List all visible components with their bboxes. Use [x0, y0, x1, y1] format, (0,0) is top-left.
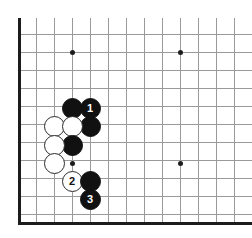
stone-black-b: [80, 116, 101, 137]
stone-black-move-3-label: 3: [87, 193, 93, 204]
stone-black-c: [62, 135, 83, 156]
stone-black-move-1-label: 1: [87, 102, 93, 113]
go-board-diagram: 123: [0, 0, 252, 238]
board-stones: 123: [0, 0, 252, 238]
stone-black-move-3: 3: [80, 189, 101, 210]
stone-white-d: [44, 153, 65, 174]
stone-white-move-2-label: 2: [69, 175, 75, 186]
stone-white-b: [62, 116, 83, 137]
